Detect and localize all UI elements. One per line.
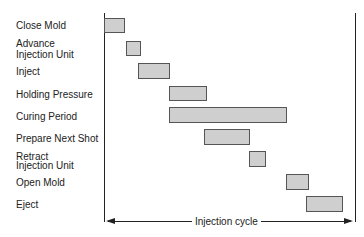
label-advance-line1: Advance — [16, 38, 55, 49]
label-curing-period: Curing Period — [16, 111, 77, 122]
bar-eject — [306, 196, 343, 212]
left-axis — [104, 13, 105, 222]
cycle-label: Injection cycle — [192, 216, 261, 227]
arrow-right-icon — [344, 218, 353, 224]
label-prepare-next-shot: Prepare Next Shot — [16, 133, 98, 144]
bar-close-mold — [104, 18, 125, 33]
bar-open-mold — [286, 174, 309, 190]
label-retract-line2: Injection Unit — [16, 160, 74, 171]
bar-curing-period — [169, 107, 287, 123]
label-advance-line2: Injection Unit — [16, 49, 74, 60]
label-holding-pressure: Holding Pressure — [16, 89, 93, 100]
bar-holding-pressure — [169, 86, 207, 101]
label-close-mold: Close Mold — [16, 20, 66, 31]
arrow-left-icon — [106, 218, 115, 224]
label-eject: Eject — [16, 199, 38, 210]
right-axis — [355, 13, 356, 222]
bar-advance-injection-unit — [126, 41, 141, 56]
label-inject: Inject — [16, 66, 40, 77]
bar-inject — [138, 63, 170, 79]
label-open-mold: Open Mold — [16, 177, 65, 188]
bar-retract-injection-unit — [249, 151, 266, 167]
bar-prepare-next-shot — [204, 129, 250, 145]
